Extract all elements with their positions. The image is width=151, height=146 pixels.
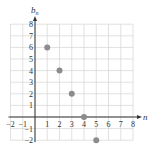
- x-axis-arrow-icon: [137, 115, 142, 119]
- x-tick-label: 6: [107, 120, 111, 129]
- x-tick-label: −2: [6, 120, 15, 129]
- y-tick-label: 6: [29, 43, 33, 52]
- x-tick-label: 2: [58, 120, 62, 129]
- y-tick-label: 1: [29, 101, 33, 110]
- data-point: [57, 68, 63, 74]
- x-tick-label: 1: [45, 120, 49, 129]
- x-tick-label: 3: [70, 120, 74, 129]
- x-axis-label: n: [143, 112, 148, 122]
- data-point: [81, 114, 87, 120]
- x-tick-label: 8: [131, 120, 135, 129]
- y-tick-label: 5: [29, 55, 33, 64]
- data-point: [93, 137, 99, 143]
- y-tick-label: −2: [24, 136, 33, 145]
- data-point: [44, 44, 50, 50]
- x-tick-label: 4: [82, 120, 86, 129]
- x-tick-label: 5: [94, 120, 98, 129]
- data-point: [69, 91, 75, 97]
- y-tick-label: 7: [29, 32, 33, 41]
- y-tick-label: 4: [29, 67, 33, 76]
- y-tick-label: 8: [29, 20, 33, 29]
- y-tick-label: 3: [29, 78, 33, 87]
- tick-labels: −2−112345678−2−112345678: [6, 20, 135, 145]
- y-tick-label: 2: [29, 90, 33, 99]
- y-axis-arrow-icon: [33, 16, 37, 21]
- scatter-chart: −2−112345678−2−112345678 n bn: [0, 0, 151, 146]
- x-tick-label: 7: [119, 120, 123, 129]
- y-tick-label: −1: [24, 125, 33, 134]
- y-axis-label: bn: [31, 5, 39, 16]
